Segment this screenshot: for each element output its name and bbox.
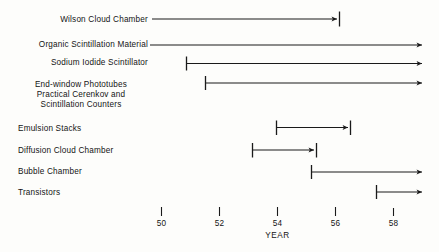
x-axis-tick-label-50: 50 — [148, 219, 175, 228]
x-axis-tick-label-56: 56 — [322, 219, 349, 228]
timeline-bar-wilson-cloud-chamber — [152, 12, 340, 27]
tick-value: 58 — [389, 219, 399, 228]
tick-value: 52 — [215, 219, 225, 228]
timeline-bar-sodium-iodide-scintillator — [186, 57, 422, 71]
x-axis-ticks — [162, 207, 394, 216]
x-axis-tick-label-58: 58 — [380, 219, 407, 228]
tick-value: 54 — [273, 219, 283, 228]
timeline-chart-plot — [0, 0, 439, 252]
x-axis-tick-label-52: 52 — [206, 219, 233, 228]
x-axis-title: YEAR — [256, 231, 299, 240]
timeline-bar-transistors — [376, 185, 422, 199]
timeline-bar-diffusion-cloud-chamber — [252, 143, 317, 158]
timeline-bar-emulsion-stacks — [276, 121, 351, 136]
tick-value: 50 — [157, 219, 167, 228]
x-axis-title-text: YEAR — [265, 231, 290, 240]
timeline-bar-end-window-phototubes — [205, 76, 422, 90]
tick-value: 56 — [331, 219, 341, 228]
x-axis-tick-label-54: 54 — [264, 219, 291, 228]
timeline-bar-bubble-chamber — [311, 165, 422, 179]
